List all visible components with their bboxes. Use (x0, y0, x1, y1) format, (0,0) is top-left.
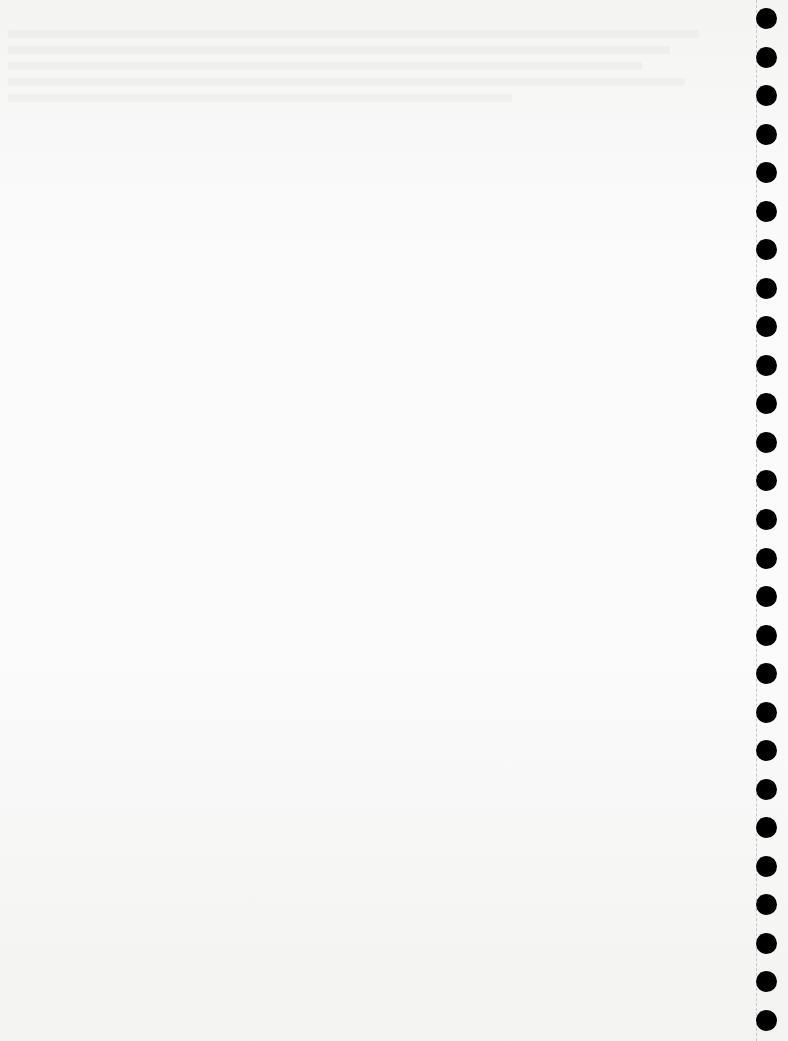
binding-hole-icon (756, 856, 777, 877)
blank-page (0, 0, 788, 1041)
binding-hole-icon (756, 740, 777, 761)
binding-hole-icon (756, 393, 777, 414)
binding-hole-icon (756, 779, 777, 800)
binding-hole-icon (756, 47, 777, 68)
binding-hole-icon (756, 586, 777, 607)
binding-hole-icon (756, 124, 777, 145)
binding-hole-icon (756, 85, 777, 106)
binding-hole-icon (756, 548, 777, 569)
binding-hole-icon (756, 663, 777, 684)
binding-hole-icon (756, 971, 777, 992)
binding-hole-icon (756, 355, 777, 376)
binding-hole-icon (756, 239, 777, 260)
binding-hole-icon (756, 162, 777, 183)
binding-hole-icon (756, 201, 777, 222)
binding-hole-icon (756, 817, 777, 838)
binding-hole-icon (756, 625, 777, 646)
binding-hole-icon (756, 8, 777, 29)
binding-hole-icon (756, 432, 777, 453)
bleed-through-text (8, 22, 728, 122)
binding-hole-icon (756, 1010, 777, 1031)
binding-hole-icon (756, 702, 777, 723)
binding-hole-icon (756, 316, 777, 337)
binding-hole-icon (756, 933, 777, 954)
binding-hole-icon (756, 509, 777, 530)
binding-hole-icon (756, 470, 777, 491)
binding-hole-icon (756, 894, 777, 915)
binding-holes (756, 0, 788, 1041)
binding-hole-icon (756, 278, 777, 299)
